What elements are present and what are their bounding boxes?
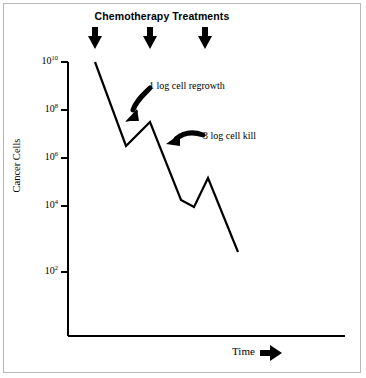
y-tick-exponent: 8	[55, 102, 58, 109]
y-tick-label-5: 102	[24, 265, 58, 276]
y-tick-exponent: 2	[55, 264, 58, 271]
x-axis-title: Time	[232, 345, 255, 357]
curved-arrow-left-icon	[166, 133, 203, 146]
down-arrow-icon-2	[143, 27, 157, 49]
curved-arrow-down-left-icon	[125, 88, 150, 122]
y-tick-label-1: 1010	[24, 55, 58, 66]
y-tick-label-2: 108	[24, 103, 58, 114]
annotation-regrowth-label: 1 log cell regrowth	[149, 80, 225, 91]
y-tick-exponent: 6	[55, 150, 58, 157]
y-tick-exponent: 4	[55, 198, 58, 205]
y-tick-exponent: 10	[52, 54, 59, 61]
y-axis-title: Cancer Cells	[11, 126, 22, 206]
annotation-kill-label: 3 log cell kill	[203, 130, 256, 141]
chart-figure: Chemotherapy Treatments	[0, 0, 366, 378]
y-tick-label-4: 104	[24, 199, 58, 210]
down-arrow-icon-3	[198, 27, 212, 49]
right-arrow-icon	[260, 345, 282, 361]
y-tick-label-3: 106	[24, 151, 58, 162]
down-arrow-icon-1	[88, 27, 102, 49]
